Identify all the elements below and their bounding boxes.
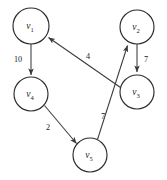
node-v1[interactable]: v1 bbox=[13, 8, 49, 44]
node-label-v2-subscript: 2 bbox=[136, 26, 139, 33]
edge-weight-v5-v2: 7 bbox=[101, 112, 105, 121]
edge-weight-v3-v1: 4 bbox=[86, 52, 90, 61]
node-label-v1-subscript: 1 bbox=[30, 25, 33, 32]
node-v3[interactable]: v3 bbox=[120, 75, 154, 109]
edge-v1-v4: 10 bbox=[14, 44, 31, 75]
edge-v2-v3: 7 bbox=[137, 44, 148, 72]
edge-weight-v2-v3: 7 bbox=[144, 55, 148, 64]
node-v2[interactable]: v2 bbox=[120, 10, 154, 44]
node-v5[interactable]: v5 bbox=[73, 138, 107, 172]
edge-v4-v5: 2 bbox=[45, 106, 77, 144]
edge-v3-v1: 4 bbox=[49, 38, 121, 88]
graph-canvas: 10 2 7 7 4 bbox=[0, 0, 167, 180]
edge-weight-v1-v4: 10 bbox=[14, 55, 22, 64]
node-v4[interactable]: v4 bbox=[14, 77, 48, 111]
graph-figure: 10 2 7 7 4 bbox=[0, 0, 167, 180]
edge-line-v3-v1 bbox=[49, 38, 121, 88]
edge-weight-v4-v5: 2 bbox=[46, 123, 50, 132]
node-group: v1 v2 v3 v4 bbox=[13, 8, 154, 172]
